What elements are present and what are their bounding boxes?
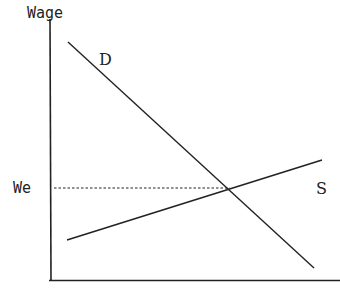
demand-label: D xyxy=(99,50,112,69)
supply-curve xyxy=(67,160,322,240)
equilibrium-wage-label: We xyxy=(13,179,31,197)
supply-demand-diagram: Wage D We S xyxy=(0,0,340,291)
demand-curve xyxy=(68,42,314,268)
y-axis xyxy=(50,19,51,281)
y-axis-label: Wage xyxy=(27,4,63,22)
supply-label: S xyxy=(316,179,327,198)
